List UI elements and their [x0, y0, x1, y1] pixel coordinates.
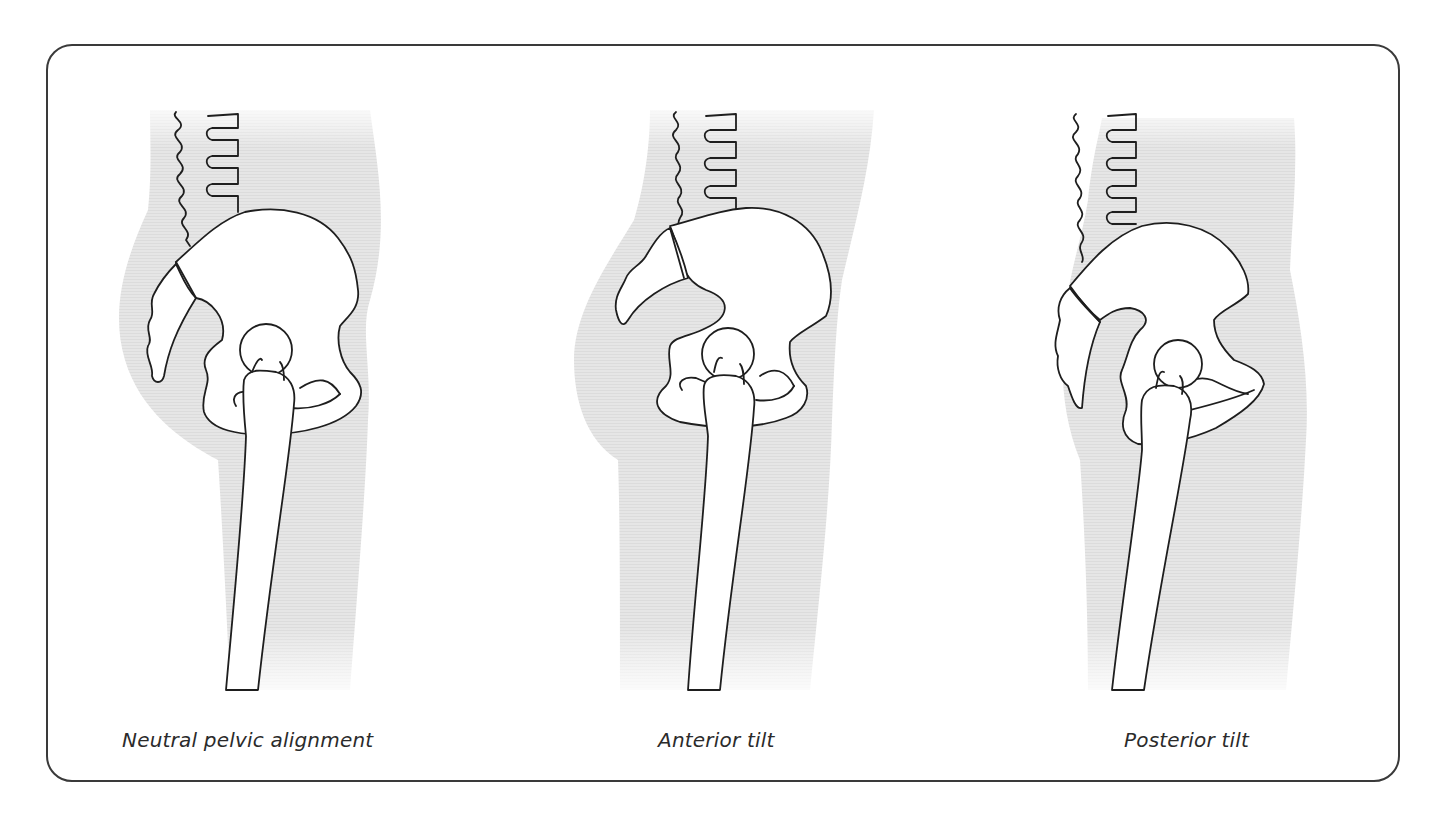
caption-posterior-tilt: Posterior tilt: [1124, 728, 1249, 752]
femoral-head: [702, 328, 754, 380]
femoral-head: [240, 324, 292, 376]
panel-anterior-tilt: Anterior tilt: [470, 0, 910, 784]
caption-anterior-tilt: Anterior tilt: [658, 728, 775, 752]
anterior-tilt-pelvis-illustration: [470, 0, 910, 784]
femoral-head: [1154, 340, 1202, 388]
panel-neutral: Neutral pelvic alignment: [0, 0, 440, 784]
neutral-pelvis-illustration: [0, 0, 440, 784]
panel-posterior-tilt: Posterior tilt: [960, 0, 1400, 784]
posterior-tilt-pelvis-illustration: [960, 0, 1400, 784]
caption-neutral: Neutral pelvic alignment: [122, 728, 373, 752]
